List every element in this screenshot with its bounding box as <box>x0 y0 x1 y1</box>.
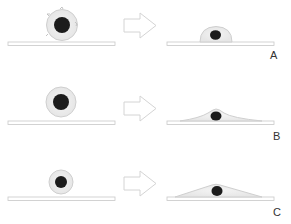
nucleus <box>53 94 69 110</box>
transition-arrow-icon <box>124 13 156 38</box>
row-c <box>8 170 274 201</box>
row-b-before <box>8 87 115 125</box>
substrate-bar <box>167 121 274 125</box>
nucleus <box>211 112 222 121</box>
substrate-bar <box>167 42 274 46</box>
substrate-bar <box>8 197 115 201</box>
row-a-after <box>167 27 274 46</box>
transition-arrow-icon <box>124 96 156 121</box>
row-a-before <box>8 7 115 46</box>
row-c-after <box>167 184 274 200</box>
nucleus <box>55 176 67 188</box>
diagram-svg <box>0 0 291 224</box>
substrate-bar <box>8 42 115 46</box>
row-b-after <box>167 109 274 125</box>
substrate-bar <box>8 121 115 125</box>
row-label-a: A <box>270 50 277 61</box>
nucleus <box>54 17 70 33</box>
row-label-b: B <box>273 131 280 142</box>
row-c-before <box>8 170 115 201</box>
row-label-c: C <box>273 207 281 218</box>
row-a <box>8 7 274 46</box>
nucleus <box>212 186 223 196</box>
substrate-bar <box>167 197 274 201</box>
diagram-canvas: A B C <box>0 0 291 224</box>
row-b <box>8 87 274 125</box>
nucleus <box>210 30 221 40</box>
transition-arrow-icon <box>124 171 156 196</box>
